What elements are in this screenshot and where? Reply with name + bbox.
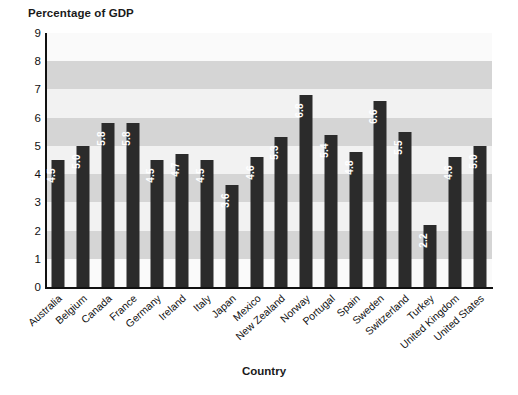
x-axis-label-slot: Germany	[145, 290, 170, 360]
bars-layer: 4.55.05.85.84.54.74.53.64.65.36.85.44.86…	[46, 33, 492, 287]
bar-slot: 5.3	[269, 33, 294, 287]
bar[interactable]: 4.5	[201, 160, 214, 287]
bar-slot: 5.0	[71, 33, 96, 287]
bar-slot: 4.5	[145, 33, 170, 287]
y-axis-tick-labels: 9876543210	[0, 0, 41, 395]
bar[interactable]: 3.6	[225, 185, 238, 287]
bar-slot: 4.5	[195, 33, 220, 287]
bar[interactable]: 4.6	[250, 157, 263, 287]
bar[interactable]: 4.6	[448, 157, 461, 287]
x-axis-label-slot: Canada	[96, 290, 121, 360]
chart-title: Percentage of GDP	[28, 7, 134, 19]
y-axis-tick-8: 8	[7, 55, 41, 67]
x-axis-category-labels: AustraliaBelgiumCanadaFranceGermanyIrela…	[46, 290, 492, 360]
y-axis-tick-2: 2	[7, 225, 41, 237]
bar-value-label: 4.8	[343, 154, 356, 180]
bar-slot: 4.6	[442, 33, 467, 287]
y-axis-tick-4: 4	[7, 168, 41, 180]
bar-value-label: 5.8	[95, 126, 108, 152]
bar-slot: 3.6	[219, 33, 244, 287]
y-axis-tick-9: 9	[7, 27, 41, 39]
bar-value-label: 6.8	[293, 98, 306, 124]
bar[interactable]: 4.5	[151, 160, 164, 287]
bar-slot: 4.7	[170, 33, 195, 287]
y-axis-tick-5: 5	[7, 140, 41, 152]
x-axis-label-slot: United States	[467, 290, 492, 360]
bar-value-label: 5.0	[467, 148, 480, 174]
bar-slot: 5.8	[96, 33, 121, 287]
bar-slot: 6.8	[294, 33, 319, 287]
x-axis-label-slot: Ireland	[170, 290, 195, 360]
bar-slot: 6.6	[368, 33, 393, 287]
y-axis-tick-0: 0	[7, 281, 41, 293]
bar[interactable]: 4.5	[52, 160, 65, 287]
x-axis-label-slot: Belgium	[71, 290, 96, 360]
x-axis-title: Country	[0, 365, 518, 377]
bar[interactable]: 5.8	[101, 123, 114, 287]
bar-chart: Percentage of GDP 9876543210 4.55.05.85.…	[0, 0, 518, 395]
bar-value-label: 4.5	[144, 163, 157, 189]
y-axis-tick-3: 3	[7, 196, 41, 208]
bar-value-label: 4.5	[45, 163, 58, 189]
bar-value-label: 5.0	[70, 148, 83, 174]
x-axis-label-slot: Australia	[46, 290, 71, 360]
bar-value-label: 5.8	[120, 126, 133, 152]
bar-value-label: 2.2	[417, 227, 430, 253]
x-axis-label-slot: Italy	[195, 290, 220, 360]
bar-slot: 5.8	[120, 33, 145, 287]
bar-value-label: 5.3	[268, 140, 281, 166]
bar-value-label: 5.4	[318, 137, 331, 163]
bar-value-label: 3.6	[219, 188, 232, 214]
bar-value-label: 4.6	[244, 160, 257, 186]
bar[interactable]: 5.8	[126, 123, 139, 287]
bar[interactable]: 5.5	[399, 132, 412, 287]
bar-slot: 4.8	[343, 33, 368, 287]
bar-slot: 5.4	[319, 33, 344, 287]
y-axis-tick-7: 7	[7, 83, 41, 95]
bar-slot: 5.5	[393, 33, 418, 287]
x-axis-label-slot: Portugal	[319, 290, 344, 360]
bar-value-label: 4.6	[442, 160, 455, 186]
bar-value-label: 5.5	[392, 134, 405, 160]
bar-slot: 4.6	[244, 33, 269, 287]
bar-value-label: 4.7	[169, 157, 182, 183]
bar-slot: 4.5	[46, 33, 71, 287]
x-axis-label-slot: New Zealand	[269, 290, 294, 360]
y-axis-tick-6: 6	[7, 112, 41, 124]
y-axis-tick-1: 1	[7, 253, 41, 265]
bar-slot: 5.0	[467, 33, 492, 287]
bar-value-label: 6.6	[367, 103, 380, 129]
bar-value-label: 4.5	[194, 163, 207, 189]
bar[interactable]: 6.8	[300, 95, 313, 287]
bar[interactable]: 5.3	[275, 137, 288, 287]
bar[interactable]: 6.6	[374, 101, 387, 287]
bar-slot: 2.2	[418, 33, 443, 287]
